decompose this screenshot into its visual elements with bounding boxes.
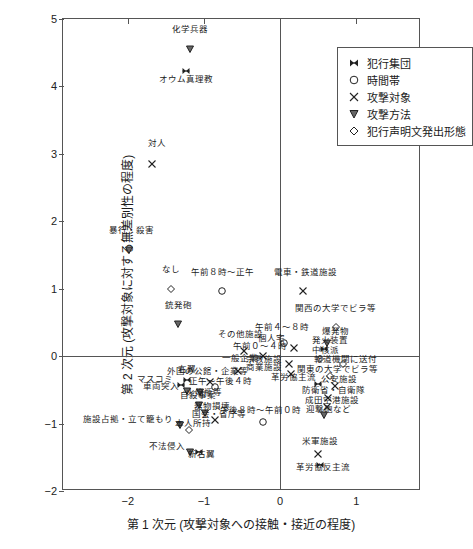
point-label: 迎撃砲など <box>306 405 351 414</box>
point-label: 成田空港施設 <box>305 396 359 405</box>
y-tick-mark <box>59 221 64 222</box>
legend-item: 犯行声明文発出形態 <box>344 122 465 139</box>
x-tick-label: −2 <box>121 489 134 507</box>
y-tick-label: 5 <box>15 13 63 25</box>
y-tick-mark <box>59 491 64 492</box>
point-label: 暴行・殺害 <box>109 226 154 235</box>
point-label: 発火装置 <box>312 336 348 345</box>
y-tick-label: 2 <box>15 215 63 227</box>
point-label: なし <box>162 265 180 274</box>
point-label: 午前８時～正午 <box>191 268 254 277</box>
triangle-down-icon <box>344 105 364 123</box>
point-label: 銃発砲 <box>165 301 192 310</box>
point-label: 防衛省・自衛隊 <box>302 386 365 395</box>
y-tick-mark <box>59 289 64 290</box>
point-label: 商業施設 <box>246 363 282 372</box>
point-label: 車両突入 <box>143 382 179 391</box>
x-tick-mark <box>356 19 357 24</box>
legend-item: 攻撃方法 <box>344 105 465 122</box>
circle-icon <box>344 71 364 89</box>
x-tick-mark <box>128 19 129 24</box>
data-point <box>218 286 227 295</box>
point-label: 正午～午後４時 <box>189 377 252 386</box>
data-point <box>298 286 307 295</box>
vertical-zero-axis <box>280 19 281 489</box>
y-tick-label: 4 <box>15 80 63 92</box>
y-tick-mark <box>59 154 64 155</box>
legend-label: 時間帯 <box>364 72 400 88</box>
point-label: 外国の公館・企業等 <box>167 367 248 376</box>
point-label: オウム真理教 <box>159 75 213 84</box>
point-label: 本人所持 <box>175 419 211 428</box>
point-label: 革労協主流 <box>271 373 316 382</box>
point-label: 新右翼 <box>188 450 215 459</box>
legend-label: 攻撃対象 <box>364 89 411 105</box>
legend-item: 犯行集団 <box>344 54 465 71</box>
bowtie-icon <box>344 54 364 72</box>
point-label: 関西の大学でビラ等 <box>295 304 376 313</box>
point-label: 自殺事案 <box>180 391 216 400</box>
point-label: 電車・鉄道施設 <box>274 268 337 277</box>
y-tick-mark <box>59 424 64 425</box>
point-label: 不法侵入 <box>149 442 185 451</box>
data-point <box>148 159 157 168</box>
point-label: 米軍施設 <box>302 437 338 446</box>
data-point <box>314 449 323 458</box>
legend-item: 攻撃対象 <box>344 88 465 105</box>
y-tick-label: −2 <box>15 485 63 497</box>
point-label: 革労協反主流 <box>296 463 350 472</box>
cross-icon <box>344 88 364 106</box>
data-point <box>258 418 267 427</box>
legend-item: 時間帯 <box>344 71 465 88</box>
point-label: 中核派 <box>312 346 339 355</box>
point-label: 報道機関に送付 <box>314 355 377 364</box>
legend-label: 犯行集団 <box>364 55 411 71</box>
point-label: 午前４～８時 <box>255 323 309 332</box>
diamond-icon <box>344 122 364 140</box>
plot-area: −2−1012345 −2−101 化学兵器オウム真理教対人暴行・殺害なし午前８… <box>62 18 420 490</box>
y-tick-mark <box>59 86 64 87</box>
data-point <box>289 344 298 353</box>
y-tick-mark <box>59 19 64 20</box>
data-point <box>125 245 134 254</box>
y-tick-label: 3 <box>15 148 63 160</box>
legend: 犯行集団時間帯攻撃対象攻撃方法犯行声明文発出形態 <box>337 47 473 146</box>
point-label: 化学兵器 <box>172 25 208 34</box>
legend-label: 犯行声明文発出形態 <box>364 123 466 139</box>
data-point <box>167 284 176 293</box>
y-tick-label: −1 <box>15 418 63 430</box>
x-tick-label: 0 <box>277 489 283 507</box>
data-point <box>186 45 195 54</box>
point-label: 公安施設 <box>321 375 357 384</box>
point-label: 対人 <box>148 139 166 148</box>
point-label: 午後８時～午前０時 <box>220 406 301 415</box>
data-point <box>174 320 183 329</box>
y-tick-label: 0 <box>15 350 63 362</box>
y-tick-label: 1 <box>15 283 63 295</box>
x-tick-mark <box>280 19 281 24</box>
x-axis-title: 第 1 次元 (攻撃対象への接触・接近の程度) <box>62 515 420 532</box>
x-tick-label: −1 <box>198 489 211 507</box>
legend-label: 攻撃方法 <box>364 106 411 122</box>
point-label: 施設占拠・立て籠もり <box>83 415 173 424</box>
point-label: 午前０～４時 <box>233 342 287 351</box>
x-tick-label: 1 <box>353 489 359 507</box>
data-point <box>285 360 294 369</box>
y-tick-mark <box>59 356 64 357</box>
